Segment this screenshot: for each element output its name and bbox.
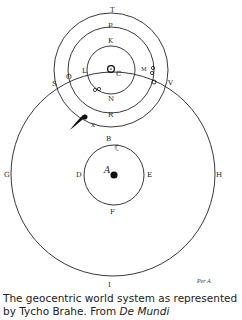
label-H: H [216,171,222,179]
label-I: I [108,281,111,289]
outer-planet-circle [54,13,168,127]
label-F: F [110,208,115,216]
label-B: B [106,135,111,143]
sun-icon [108,66,115,73]
tycho-diagram: ☾ T P K C L M O S V N R X B D E F A G H … [0,0,242,290]
caption-line-2-prefix: by Tycho Brahe. From [3,305,120,317]
label-P: P [108,22,113,30]
label-O: O [66,73,72,81]
inner-planet-circle [87,46,135,94]
label-D: D [76,171,82,179]
label-C: C [116,70,121,78]
label-A: A [103,165,111,175]
label-E: E [147,171,152,179]
figure-caption: The geocentric world system as represent… [3,292,241,320]
caption-line-1: The geocentric world system as represent… [3,292,241,305]
label-L: L [82,67,87,75]
earth-icon [110,171,117,178]
caption-line-2: by Tycho Brahe. From De Mundi [3,305,241,318]
credit-text: Per A [197,278,211,284]
label-T: T [110,6,115,14]
label-K: K [108,37,114,45]
label-S: S [52,80,57,88]
caption-book-title: De Mundi [120,305,170,317]
label-V: V [167,79,174,87]
comet-icon [70,115,85,130]
label-M: M [141,66,147,72]
label-N: N [108,95,114,103]
label-G: G [4,171,10,179]
label-X: X [91,122,95,128]
label-R: R [108,111,114,119]
moon-icon: ☾ [114,143,122,153]
